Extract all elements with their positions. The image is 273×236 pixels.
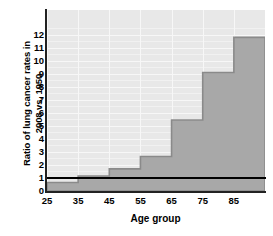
- y-axis-tick-label: 9: [22, 69, 44, 79]
- y-axis-tick-label: 1: [22, 173, 44, 183]
- x-axis-tick-label: 65: [159, 195, 185, 206]
- y-axis-tick-label: 2: [22, 160, 44, 170]
- y-axis-line: [45, 9, 47, 193]
- step-area-polygon: [47, 37, 265, 191]
- plot-area: [47, 10, 265, 191]
- chart-container: Ratio of lung cancer rates in 2008 vs. 1…: [0, 0, 273, 236]
- x-axis-tick-labels: 25354555657585: [0, 195, 273, 209]
- y-axis-tick-label: 11: [22, 43, 44, 53]
- y-axis-tick-label: 5: [22, 121, 44, 131]
- y-axis-tick-label: 8: [22, 82, 44, 92]
- x-axis-tick-label: 45: [96, 195, 122, 206]
- y-axis-tick-label: 12: [22, 30, 44, 40]
- x-axis-title: Age group: [45, 213, 266, 224]
- y-axis-tick-label: 7: [22, 95, 44, 105]
- step-area-series: [47, 10, 265, 191]
- y-axis-tick-label: 6: [22, 108, 44, 118]
- y-axis-tick-label: 4: [22, 134, 44, 144]
- x-axis-tick-label: 55: [127, 195, 153, 206]
- y-axis-tick-label: 10: [22, 56, 44, 66]
- x-axis-tick-label: 75: [190, 195, 216, 206]
- y-axis-tick-label: 3: [22, 147, 44, 157]
- reference-line-ratio-one: [46, 177, 266, 180]
- x-axis-tick-label: 85: [221, 195, 247, 206]
- x-axis-line: [45, 191, 266, 193]
- x-axis-tick-label: 25: [34, 195, 60, 206]
- x-axis-tick-label: 35: [65, 195, 91, 206]
